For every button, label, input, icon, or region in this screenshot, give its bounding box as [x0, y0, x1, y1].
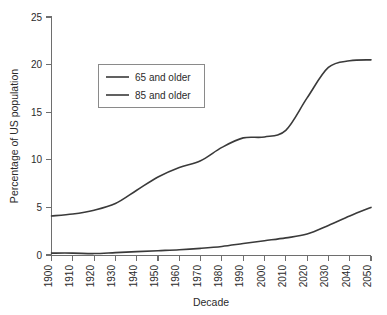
- x-tick-label: 1990: [234, 265, 245, 288]
- x-tick-label: 1900: [43, 265, 54, 288]
- y-tick-label: 20: [31, 59, 43, 70]
- x-tick-label: 1970: [192, 265, 203, 288]
- y-axis-title: Percentage of US population: [8, 69, 20, 203]
- x-axis-ticks: 1900191019201930194019501960197019801990…: [43, 256, 374, 288]
- x-tick-label: 2040: [341, 265, 352, 288]
- chart-figure: 0510152025 19001910192019301940195019601…: [0, 0, 387, 315]
- x-tick-label: 1940: [128, 265, 139, 288]
- x-tick-label: 2000: [256, 265, 267, 288]
- legend-label-85-and-older: 85 and older: [135, 90, 191, 101]
- x-axis-title: Decade: [193, 296, 229, 308]
- y-tick-label: 10: [31, 154, 43, 165]
- x-tick-label: 1930: [106, 265, 117, 288]
- x-tick-label: 1920: [85, 265, 96, 288]
- x-tick-label: 1910: [64, 265, 75, 288]
- series-line-85-and-older: [52, 207, 372, 253]
- x-tick-label: 2050: [362, 265, 373, 288]
- legend-label-65-and-older: 65 and older: [135, 72, 191, 83]
- y-tick-label: 25: [31, 12, 43, 23]
- x-tick-label: 2020: [298, 265, 309, 288]
- y-tick-label: 5: [36, 202, 42, 213]
- x-tick-label: 2030: [319, 265, 330, 288]
- x-tick-label: 1980: [213, 265, 224, 288]
- x-tick-label: 1950: [149, 265, 160, 288]
- y-tick-label: 15: [31, 107, 43, 118]
- x-tick-label: 2010: [277, 265, 288, 288]
- chart-legend: 65 and older 85 and older: [99, 65, 205, 108]
- y-axis-ticks: 0510152025: [31, 12, 52, 261]
- y-tick-label: 0: [36, 250, 42, 261]
- line-chart: 0510152025 19001910192019301940195019601…: [0, 0, 387, 315]
- x-tick-label: 1960: [170, 265, 181, 288]
